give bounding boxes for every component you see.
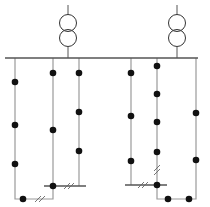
load-node	[186, 196, 193, 203]
load-node	[128, 70, 135, 77]
load-node	[76, 148, 83, 155]
feeder-lines	[15, 58, 196, 199]
load-node	[50, 127, 57, 134]
load-node	[12, 161, 19, 168]
transformer-icon	[169, 5, 186, 58]
network-diagram	[0, 0, 210, 207]
load-node	[12, 79, 19, 86]
load-node	[154, 63, 161, 70]
tie-lines	[44, 185, 167, 186]
load-node	[154, 91, 161, 98]
load-node	[50, 70, 57, 77]
load-node	[76, 70, 83, 77]
load-node	[20, 196, 27, 203]
feeder-F1	[15, 58, 53, 199]
load-node	[128, 158, 135, 165]
load-node	[12, 122, 19, 129]
transformers	[60, 5, 186, 58]
load-node	[193, 157, 200, 164]
load-node	[154, 149, 161, 156]
load-node	[154, 119, 161, 126]
load-node	[165, 196, 172, 203]
load-nodes	[12, 63, 200, 203]
transformer-icon	[60, 5, 77, 58]
load-node	[154, 182, 161, 189]
feeder-F4	[157, 58, 196, 199]
load-node	[128, 113, 135, 120]
load-node	[76, 109, 83, 116]
load-node	[50, 183, 57, 190]
load-node	[193, 110, 200, 117]
